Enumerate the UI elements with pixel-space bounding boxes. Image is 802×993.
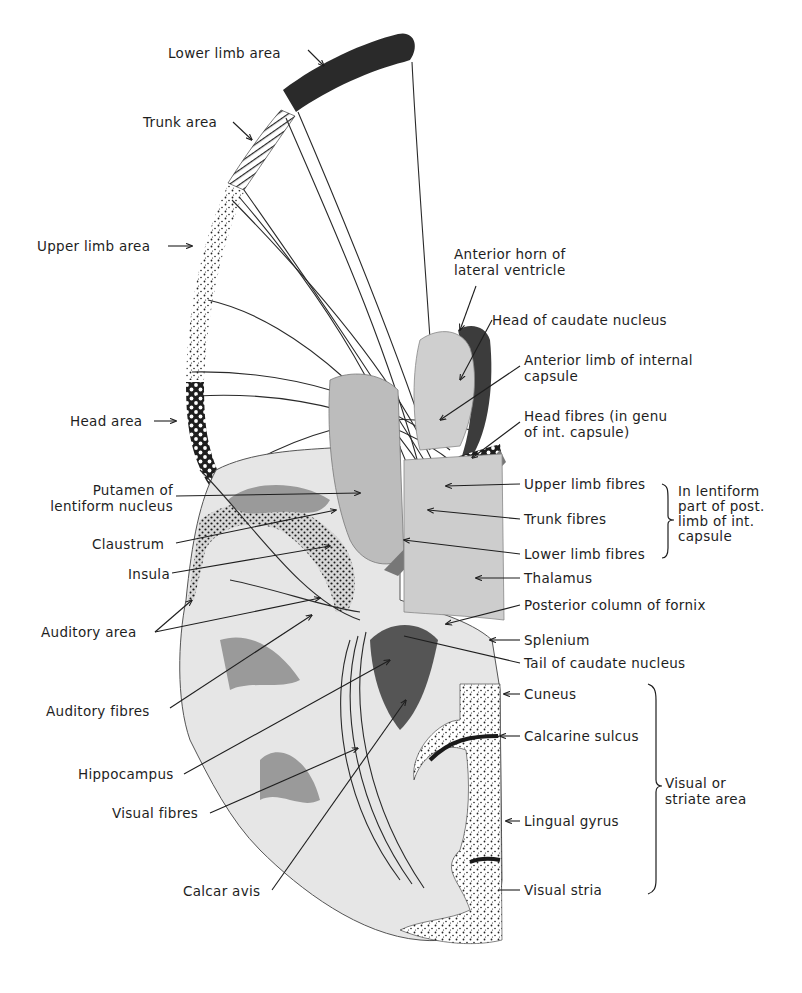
label-head-fibres: Head fibres (in genu of int. capsule)	[524, 408, 667, 440]
label-head-caudate: Head of caudate nucleus	[492, 312, 667, 328]
lower-limb-band	[283, 33, 415, 112]
label-visual-bracket: Visual or striate area	[665, 775, 747, 807]
label-lower-limb-area: Lower limb area	[168, 45, 281, 61]
label-tail-caudate: Tail of caudate nucleus	[524, 655, 685, 671]
label-posterior-column-fornix: Posterior column of fornix	[524, 597, 706, 613]
label-upper-limb-fibres: Upper limb fibres	[524, 476, 645, 492]
label-anterior-limb: Anterior limb of internal capsule	[524, 352, 693, 384]
label-insula: Insula	[128, 566, 170, 582]
thalamus-body	[404, 454, 504, 620]
lentiform-bracket-shape	[662, 484, 674, 558]
label-anterior-horn: Anterior horn of lateral ventricle	[454, 246, 566, 278]
label-auditory-area: Auditory area	[41, 624, 137, 640]
hemisphere-section	[180, 326, 506, 944]
label-trunk-area: Trunk area	[143, 114, 217, 130]
label-visual-stria: Visual stria	[524, 882, 602, 898]
label-lower-limb-fibres: Lower limb fibres	[524, 546, 645, 562]
label-hippocampus: Hippocampus	[78, 766, 174, 782]
label-head-area: Head area	[70, 413, 142, 429]
caudate-head	[414, 332, 475, 450]
brackets	[648, 484, 674, 894]
label-upper-limb-area: Upper limb area	[37, 238, 150, 254]
label-splenium: Splenium	[524, 632, 590, 648]
label-calcar-avis: Calcar avis	[183, 883, 260, 899]
label-calcarine-sulcus: Calcarine sulcus	[524, 728, 639, 744]
label-lentiform-bracket: In lentiform part of post. limb of int. …	[678, 484, 765, 544]
label-auditory-fibres: Auditory fibres	[46, 703, 150, 719]
label-claustrum: Claustrum	[92, 536, 164, 552]
upper-limb-band	[186, 185, 244, 380]
label-cuneus: Cuneus	[524, 686, 576, 702]
label-visual-fibres: Visual fibres	[112, 805, 198, 821]
trunk-band	[228, 110, 295, 190]
label-thalamus: Thalamus	[524, 570, 592, 586]
label-putamen: Putamen of lentiform nucleus	[37, 482, 173, 514]
visual-bracket-shape	[648, 684, 662, 894]
label-lingual-gyrus: Lingual gyrus	[524, 813, 619, 829]
label-trunk-fibres: Trunk fibres	[524, 511, 606, 527]
